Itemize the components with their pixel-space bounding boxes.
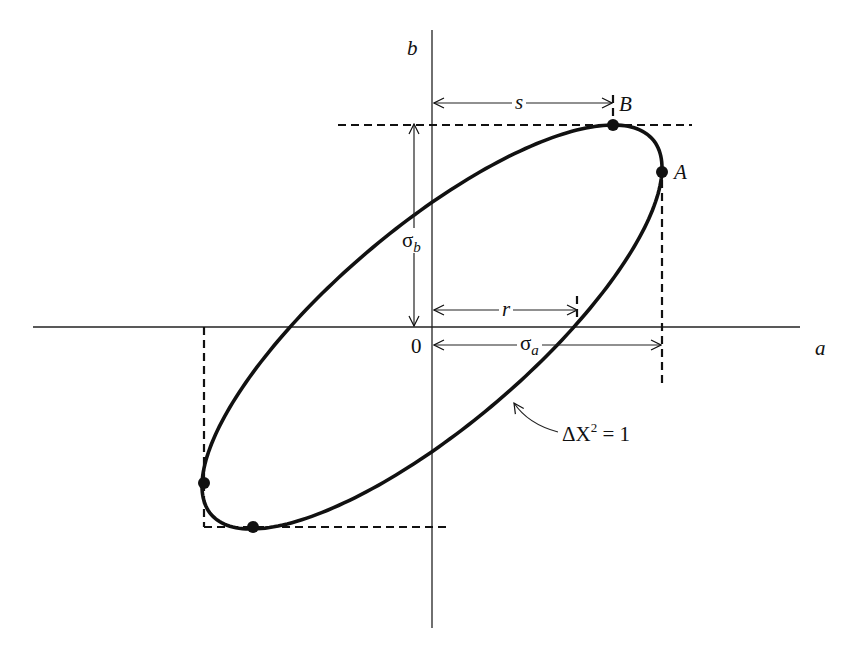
point-bottom-tangent-marker bbox=[247, 521, 259, 533]
sigma-b-subscript: b bbox=[413, 239, 421, 255]
curve-label-leader-arrow bbox=[514, 403, 558, 432]
point-B-marker bbox=[607, 119, 619, 131]
delta-chi-square-label: ΔΧ2 = 1 bbox=[562, 424, 630, 445]
delta-chi-suffix: = 1 bbox=[597, 422, 630, 446]
s-dimension-label: s bbox=[512, 92, 526, 113]
point-b-label: B bbox=[619, 94, 632, 115]
dashed-guide-lines bbox=[204, 95, 692, 527]
origin-label: 0 bbox=[411, 336, 422, 357]
b-axis-label: b bbox=[407, 38, 418, 59]
point-A-marker bbox=[656, 166, 668, 178]
delta-chi-superscript: 2 bbox=[591, 420, 598, 435]
a-axis-label: a bbox=[815, 338, 826, 359]
sigma-a-subscript: a bbox=[531, 342, 539, 358]
tangent-points bbox=[198, 119, 668, 533]
confidence-ellipse-diagram bbox=[0, 0, 860, 660]
delta-chi-prefix: ΔΧ bbox=[562, 422, 591, 446]
sigma-a-label: σa bbox=[517, 333, 542, 354]
point-bottom-left-tangent-marker bbox=[198, 477, 210, 489]
sigma-a-base: σ bbox=[520, 331, 531, 355]
sigma-b-base: σ bbox=[402, 228, 413, 252]
r-dimension-label: r bbox=[499, 299, 513, 320]
sigma-b-label: σb bbox=[401, 228, 422, 253]
point-a-label: A bbox=[674, 162, 687, 183]
